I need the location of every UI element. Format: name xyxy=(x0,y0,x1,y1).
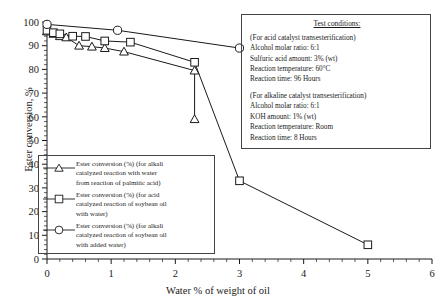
x-tick-label: 1 xyxy=(109,268,114,279)
marker-square xyxy=(56,30,64,38)
acid-line-4: Reaction time: 96 Hours xyxy=(250,74,424,84)
marker-square xyxy=(101,37,109,45)
marker-square xyxy=(364,241,372,249)
legend-item-circle: Ester conversion (%) (for alkali catalyz… xyxy=(42,221,210,249)
x-tick-label: 2 xyxy=(173,268,178,279)
alkaline-line-2: KOH amount: 1% (wt) xyxy=(250,112,424,122)
marker-square xyxy=(236,177,244,185)
legend-label-square-l1: catalyzed reaction of soybean oil xyxy=(76,199,210,208)
alkaline-line-0: (For alkaline catalyst transesterificati… xyxy=(250,91,424,101)
y-tick-label: 0 xyxy=(34,254,39,265)
acid-line-0: (For acid catalyst transesterification) xyxy=(250,33,424,43)
legend-label-circle-l2: with added water) xyxy=(76,240,210,249)
x-tick-label: 0 xyxy=(44,268,49,279)
legend-marker-triangle-icon xyxy=(42,159,76,175)
series-line-triangle xyxy=(47,31,195,119)
x-tick-label: 5 xyxy=(365,268,370,279)
x-tick-label: 4 xyxy=(301,268,307,279)
marker-circle xyxy=(43,20,51,28)
legend-label-triangle-l1: catalyzed reaction with water xyxy=(76,168,210,177)
acid-line-3: Reaction temperature: 60°C xyxy=(250,64,424,74)
alkaline-line-4: Reaction time: 8 Hours xyxy=(250,133,424,143)
acid-line-1: Alcohol molar ratio: 6:1 xyxy=(250,43,424,53)
y-tick-label: 100 xyxy=(23,17,39,28)
acid-line-2: Sulfuric acid amount: 3% (wt) xyxy=(250,54,424,64)
x-tick-label: 6 xyxy=(429,268,434,279)
marker-triangle xyxy=(190,115,199,123)
legend-label-square-l0: Ester conversion (%) (for acid xyxy=(76,190,210,199)
legend-marker-square-icon xyxy=(42,190,76,206)
test-conditions-box: Test conditions: (For acid catalyst tran… xyxy=(241,14,431,149)
x-axis-title: Water % of weight of oil xyxy=(0,285,436,296)
legend-item-triangle: Ester conversion (%) (for alkali catalyz… xyxy=(42,159,210,187)
legend-marker-circle-icon xyxy=(42,221,76,237)
legend-label-square-l2: with water) xyxy=(76,209,210,218)
legend: Ester conversion (%) (for alkali catalyz… xyxy=(38,155,215,254)
marker-circle xyxy=(113,26,121,34)
legend-label-circle: Ester conversion (%) (for alkali catalyz… xyxy=(76,221,210,249)
alkaline-line-3: Reaction temperature: Room xyxy=(250,122,424,132)
marker-square xyxy=(191,58,199,66)
marker-square xyxy=(69,32,77,40)
legend-label-circle-l1: catalyzed reaction of soybean oil xyxy=(76,230,210,239)
legend-label-triangle: Ester conversion (%) (for alkali catalyz… xyxy=(76,159,210,187)
legend-label-triangle-l0: Ester conversion (%) (for alkali xyxy=(76,159,210,168)
y-axis-title: Ester conversion, % xyxy=(23,50,34,210)
x-tick-label: 3 xyxy=(237,268,242,279)
marker-triangle xyxy=(75,41,84,49)
legend-label-circle-l0: Ester conversion (%) (for alkali xyxy=(76,221,210,230)
legend-label-square: Ester conversion (%) (for acid catalyzed… xyxy=(76,190,210,218)
marker-square xyxy=(127,38,135,46)
chart-figure: 01020304050607080901000123456 Water % of… xyxy=(0,0,436,302)
alkaline-line-1: Alcohol molar ratio: 6:1 xyxy=(250,101,424,111)
marker-square xyxy=(82,33,90,41)
legend-label-triangle-l2: from reaction of palmitic acid) xyxy=(76,178,210,187)
test-conditions-title: Test conditions: xyxy=(250,19,424,30)
legend-item-square: Ester conversion (%) (for acid catalyzed… xyxy=(42,190,210,218)
